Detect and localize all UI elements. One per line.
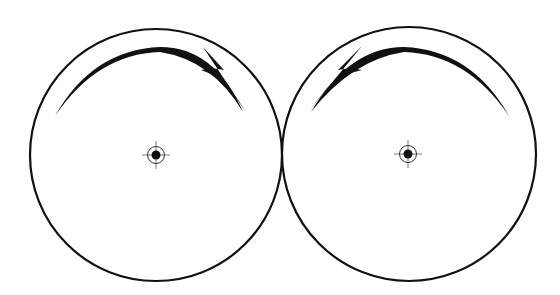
counter-clockwise-arrow-icon xyxy=(308,46,509,116)
clockwise-arrow-icon xyxy=(55,47,246,116)
left-axle-crosshair-icon xyxy=(142,141,170,169)
left-wheel xyxy=(30,29,282,281)
diagram-canvas xyxy=(0,0,560,295)
right-wheel xyxy=(282,27,536,281)
right-axle-crosshair-icon xyxy=(394,140,422,168)
counter-rotating-wheels-diagram xyxy=(0,0,560,295)
